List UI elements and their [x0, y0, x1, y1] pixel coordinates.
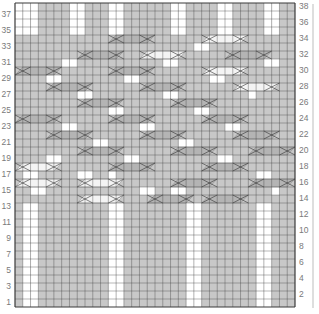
row-label: 13	[2, 201, 12, 211]
knit-cell	[225, 123, 233, 131]
knit-cell	[171, 59, 179, 67]
knit-cell	[54, 75, 62, 83]
knit-cell	[38, 187, 46, 195]
row-label: 30	[299, 65, 309, 75]
row-label: 8	[299, 241, 304, 251]
knit-cell	[178, 139, 186, 147]
knitting-chart: 135791113151719212325272931333537 246810…	[0, 0, 319, 314]
row-label: 23	[2, 121, 12, 131]
row-label: 18	[299, 161, 309, 171]
knit-cell	[101, 139, 109, 147]
row-label: 31	[2, 57, 12, 67]
knit-cell	[116, 107, 124, 115]
row-label: 12	[299, 209, 309, 219]
knit-cell	[93, 139, 101, 147]
knit-cell	[124, 75, 132, 83]
knit-cell	[171, 91, 179, 99]
knit-column	[116, 203, 124, 307]
row-label: 14	[299, 193, 309, 203]
knit-cell	[186, 139, 194, 147]
knit-cell	[132, 75, 140, 83]
row-label: 15	[2, 185, 12, 195]
knit-cell	[54, 155, 62, 163]
row-label: 11	[2, 217, 11, 227]
row-label: 1	[6, 297, 11, 307]
row-label: 16	[299, 177, 309, 187]
knit-cell	[163, 91, 171, 99]
knit-cell	[256, 171, 264, 179]
knit-cell	[233, 123, 241, 131]
row-label: 28	[299, 81, 309, 91]
left-row-labels: 135791113151719212325272931333537	[2, 9, 12, 307]
row-label: 19	[2, 153, 12, 163]
knit-column	[256, 203, 264, 307]
knit-column	[23, 203, 31, 307]
knit-cell	[62, 59, 70, 67]
knit-column	[108, 203, 116, 307]
row-label: 38	[299, 1, 309, 11]
row-label: 17	[2, 169, 12, 179]
knit-cell	[272, 187, 280, 195]
row-label: 33	[2, 41, 12, 51]
knit-cell	[62, 123, 70, 131]
knit-cell	[147, 123, 155, 131]
knit-cell	[108, 171, 116, 179]
knit-cell	[171, 187, 179, 195]
knit-cell	[85, 171, 93, 179]
knit-cell	[264, 171, 272, 179]
knit-cell	[124, 155, 132, 163]
row-label: 34	[299, 33, 309, 43]
knit-cell	[132, 155, 140, 163]
knit-column	[194, 203, 202, 307]
row-label: 32	[299, 49, 309, 59]
knit-cell	[77, 171, 85, 179]
knit-cell	[108, 107, 116, 115]
knit-cell	[194, 107, 202, 115]
row-label: 3	[6, 281, 11, 291]
knit-cell	[139, 123, 147, 131]
right-row-labels: 2468101214161820222426283032343638	[299, 1, 309, 299]
knit-cell	[178, 187, 186, 195]
row-label: 26	[299, 97, 309, 107]
knit-cell	[209, 75, 217, 83]
knit-cell	[202, 107, 210, 115]
row-label: 7	[6, 249, 11, 259]
knit-cell	[85, 91, 93, 99]
knit-cell	[217, 155, 225, 163]
knit-cell	[225, 155, 233, 163]
knit-cell	[202, 43, 210, 51]
row-label: 36	[299, 17, 309, 27]
knit-cell	[31, 187, 39, 195]
knit-cell	[147, 187, 155, 195]
knit-cell	[272, 59, 280, 67]
row-label: 2	[299, 289, 304, 299]
knit-cell	[69, 123, 77, 131]
row-label: 4	[299, 273, 304, 283]
row-label: 20	[299, 145, 309, 155]
knit-cell	[139, 187, 147, 195]
knit-cell	[69, 59, 77, 67]
knit-cell	[23, 171, 31, 179]
row-label: 6	[299, 257, 304, 267]
knit-cell	[248, 91, 256, 99]
row-label: 21	[2, 137, 12, 147]
row-label: 27	[2, 89, 12, 99]
row-label: 5	[6, 265, 11, 275]
knit-cell	[264, 59, 272, 67]
row-label: 37	[2, 9, 12, 19]
row-label: 25	[2, 105, 12, 115]
knit-cell	[194, 43, 202, 51]
knit-cell	[163, 59, 171, 67]
knit-cell	[217, 75, 225, 83]
row-label: 9	[6, 233, 11, 243]
knit-cell	[46, 155, 54, 163]
row-label: 22	[299, 129, 309, 139]
knit-cell	[46, 75, 54, 83]
row-label: 24	[299, 113, 309, 123]
row-label: 10	[299, 225, 309, 235]
knit-column	[186, 203, 194, 307]
knit-cell	[77, 91, 85, 99]
row-label: 35	[2, 25, 12, 35]
knit-column	[31, 203, 39, 307]
knit-column	[264, 203, 272, 307]
